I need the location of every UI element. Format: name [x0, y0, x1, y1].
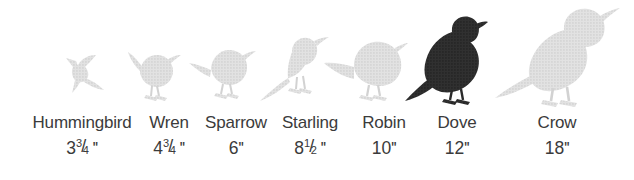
- size-fraction-hummingbird: 3/4: [76, 137, 93, 155]
- size-prime-sparrow: '': [238, 138, 243, 158]
- wren-icon: [118, 46, 184, 102]
- bird-size-label-row: 33/4'' 43/4'' 6'' 81/2'' 10'' 12'' 18'': [0, 136, 634, 160]
- bird-size-hummingbird: 33/4'': [22, 136, 142, 160]
- bird-figure-robin: [322, 34, 408, 102]
- size-prime-dove: '': [464, 138, 469, 158]
- sparrow-icon: [185, 40, 257, 100]
- bird-size-crow: 18'': [524, 136, 590, 160]
- size-prime-starling: '': [320, 138, 325, 158]
- bird-figure-starling: [252, 32, 330, 104]
- size-whole-robin: 10: [372, 138, 391, 158]
- bird-label-dove: Dove: [424, 111, 490, 135]
- size-fraction-wren: 3/4: [163, 137, 180, 155]
- dove-icon: [400, 12, 496, 106]
- bird-size-robin: 10'': [350, 136, 418, 160]
- size-whole-hummingbird: 3: [66, 138, 76, 158]
- bird-size-starling: 81/2'': [272, 136, 348, 160]
- size-prime-robin: '': [391, 138, 396, 158]
- size-whole-crow: 18: [545, 138, 564, 158]
- bird-silhouette-row: [0, 0, 634, 112]
- bird-size-wren: 43/4'': [140, 136, 198, 160]
- starling-icon: [252, 32, 330, 104]
- bird-figure-dove: [400, 12, 496, 106]
- robin-icon: [322, 34, 408, 102]
- size-whole-wren: 4: [153, 138, 163, 158]
- bird-label-sparrow: Sparrow: [196, 111, 276, 135]
- size-prime-hummingbird: '': [92, 138, 97, 158]
- bird-label-crow: Crow: [524, 111, 590, 135]
- bird-label-robin: Robin: [350, 111, 418, 135]
- size-whole-starling: 8: [294, 138, 304, 158]
- bird-figure-wren: [118, 46, 184, 102]
- size-whole-dove: 12: [445, 138, 464, 158]
- hummingbird-icon: [52, 52, 112, 98]
- bird-name-label-row: Hummingbird Wren Sparrow Starling Robin …: [0, 111, 634, 135]
- bird-size-dove: 12'': [424, 136, 490, 160]
- bird-figure-sparrow: [185, 40, 257, 100]
- bird-figure-hummingbird: [52, 52, 112, 98]
- bird-figure-crow: [494, 4, 620, 108]
- size-whole-sparrow: 6: [229, 138, 239, 158]
- crow-icon: [494, 4, 620, 108]
- size-fraction-starling: 1/2: [304, 137, 321, 155]
- bird-size-sparrow: 6'': [196, 136, 276, 160]
- bird-size-comparison-figure: Hummingbird Wren Sparrow Starling Robin …: [0, 0, 634, 180]
- size-prime-crow: '': [564, 138, 569, 158]
- size-prime-wren: '': [179, 138, 184, 158]
